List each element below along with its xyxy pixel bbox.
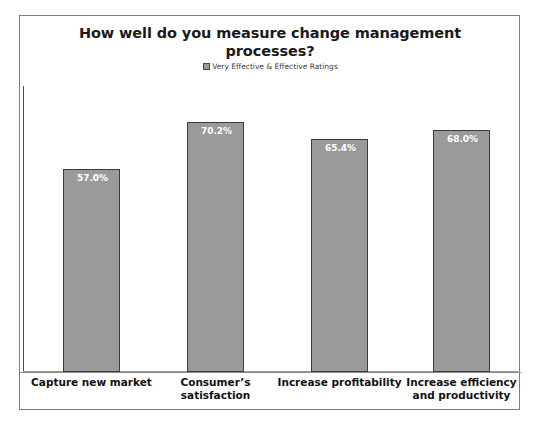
x-axis-label-line: Capture new market bbox=[20, 376, 163, 389]
bar-value-label: 70.2% bbox=[188, 126, 245, 136]
chart-frame: How well do you measure change managemen… bbox=[19, 15, 520, 410]
bar-value-label: 57.0% bbox=[64, 173, 121, 183]
bar[interactable]: 70.2% bbox=[187, 122, 244, 372]
x-axis-label: Increase efficiency and productivity bbox=[390, 376, 533, 402]
y-axis-line bbox=[23, 86, 24, 372]
bar[interactable]: 57.0% bbox=[63, 169, 120, 372]
bar[interactable]: 68.0% bbox=[433, 130, 490, 372]
x-axis-label: Consumer’s satisfaction bbox=[144, 376, 287, 402]
x-axis-label-line: satisfaction bbox=[144, 389, 287, 402]
x-axis-label: Capture new market bbox=[20, 376, 163, 389]
x-axis-label-line: Consumer’s bbox=[144, 376, 287, 389]
bar-value-label: 68.0% bbox=[434, 134, 491, 144]
bar-value-label: 65.4% bbox=[312, 143, 369, 153]
x-axis-labels: Capture new market Consumer’s satisfacti… bbox=[20, 372, 521, 411]
plot-area: 57.0% 70.2% 65.4% 68.0% Capture new mark… bbox=[20, 16, 521, 411]
x-axis-label-line: Increase efficiency bbox=[390, 376, 533, 389]
bar[interactable]: 65.4% bbox=[311, 139, 368, 372]
x-axis-label-line: and productivity bbox=[390, 389, 533, 402]
